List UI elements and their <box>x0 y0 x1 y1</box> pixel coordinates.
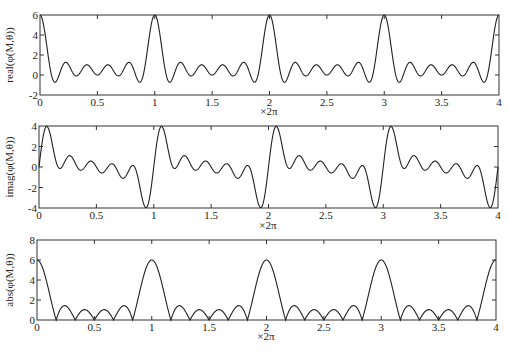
imag-curve <box>39 126 498 207</box>
y-tick-label: 8 <box>30 234 36 246</box>
x-tick-label: 1 <box>152 96 158 108</box>
x-axis-unit: ×2π <box>257 330 275 342</box>
x-tick-label: 1 <box>149 321 155 333</box>
x-tick-label: 0.5 <box>91 96 105 108</box>
x-tick-label: 2.5 <box>319 209 333 221</box>
y-tick-label: -2 <box>29 89 38 101</box>
x-tick-label: 3 <box>382 96 388 108</box>
x-tick-label: 1.5 <box>202 321 216 333</box>
x-axis-unit: ×2π <box>259 219 277 231</box>
panel-real: 00.511.522.533.54-20246 real(φ(M,θ)) ×2π <box>3 9 502 117</box>
x-tick-label: 0.5 <box>90 209 104 221</box>
panel-imag: 00.511.522.533.54-4-2024 imag(φ(M,θ)) ×2… <box>3 120 501 231</box>
x-tick-label: 0.5 <box>88 321 102 333</box>
y-tick-label: 0 <box>32 161 38 173</box>
x-tick-label: 1.5 <box>204 209 218 221</box>
y-tick-label: 6 <box>30 254 36 266</box>
x-tick-label: 0 <box>37 96 43 108</box>
y-tick-label: 2 <box>30 294 36 306</box>
x-tick-label: 3 <box>379 321 385 333</box>
abs-curve <box>37 260 496 320</box>
panel-abs: 00.511.522.533.5402468 abs(φ(M,θ)) ×2π <box>3 234 499 342</box>
axes-frame <box>40 15 499 95</box>
x-tick-label: 3.5 <box>432 321 446 333</box>
y-axis-label: real(φ(M,θ)) <box>3 27 16 83</box>
y-axis-label: imag(φ(M,θ)) <box>3 136 16 197</box>
y-tick-label: -2 <box>28 182 37 194</box>
y-tick-label: 2 <box>33 49 39 61</box>
x-axis-unit: ×2π <box>260 105 278 117</box>
ticks: 00.511.522.533.5402468 <box>30 234 500 333</box>
y-tick-label: 4 <box>30 274 36 286</box>
y-tick-label: 0 <box>30 314 36 326</box>
y-tick-label: 4 <box>33 29 39 41</box>
y-tick-label: 4 <box>32 120 38 132</box>
ticks: 00.511.522.533.54-20246 <box>29 9 502 108</box>
x-tick-label: 2.5 <box>317 321 331 333</box>
x-tick-label: 1 <box>151 209 157 221</box>
real-curve <box>40 15 499 82</box>
y-axis-label: abs(φ(M,θ)) <box>3 253 16 307</box>
x-tick-label: 4 <box>495 209 501 221</box>
x-tick-label: 4 <box>493 321 499 333</box>
x-tick-label: 0 <box>36 209 42 221</box>
x-tick-label: 3.5 <box>435 96 449 108</box>
y-tick-label: 0 <box>33 69 39 81</box>
x-tick-label: 3.5 <box>434 209 448 221</box>
figure: 00.511.522.533.54-20246 real(φ(M,θ)) ×2π… <box>0 0 509 352</box>
y-tick-label: -4 <box>28 202 38 214</box>
x-tick-label: 1.5 <box>205 96 219 108</box>
x-tick-label: 3 <box>381 209 387 221</box>
x-tick-label: 0 <box>34 321 40 333</box>
x-tick-label: 4 <box>496 96 502 108</box>
y-tick-label: 2 <box>32 141 38 153</box>
axes-frame <box>37 240 496 320</box>
x-tick-label: 2.5 <box>320 96 334 108</box>
y-tick-label: 6 <box>33 9 39 21</box>
